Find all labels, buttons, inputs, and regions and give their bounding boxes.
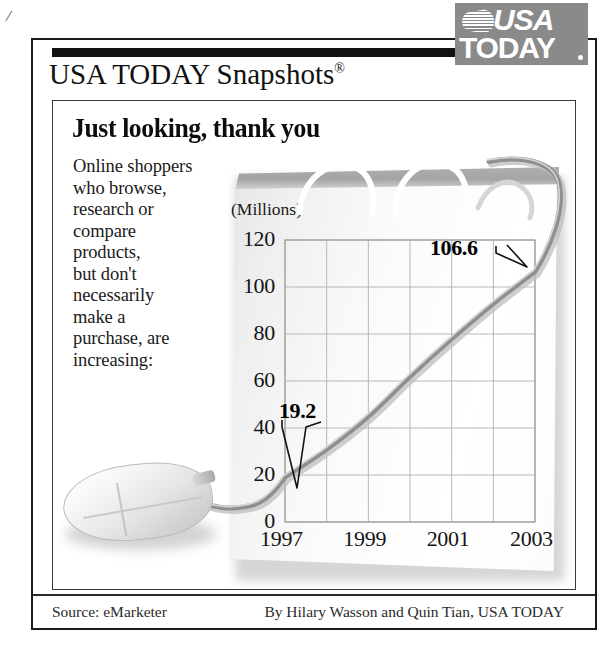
y-axis-tick-label: 100 <box>227 273 275 299</box>
deck-text: Online shoppers who browse, research or … <box>73 156 223 371</box>
y-axis-tick-label: 40 <box>227 414 275 440</box>
deck-line: who browse, <box>73 178 223 200</box>
scan-artifact-mark: / <box>4 6 26 31</box>
deck-line: necessarily <box>73 285 223 307</box>
y-axis-tick-label: 60 <box>227 367 275 393</box>
credit-label: By Hilary Wasson and Quin Tian, USA TODA… <box>264 603 564 621</box>
grid-lines <box>285 240 535 522</box>
data-callout-2003: 106.6 <box>430 235 478 261</box>
masthead-title: USA TODAY Snapshots® <box>49 58 345 91</box>
deck-line: make a <box>73 307 223 329</box>
logo-today-text: TODAY <box>459 32 555 64</box>
masthead-title-text: USA TODAY Snapshots <box>49 58 334 90</box>
masthead-rule <box>52 48 457 57</box>
registered-mark: ® <box>334 61 345 76</box>
usa-today-snapshot: / USA TODAY Snapshots® USA TODAY Just lo… <box>0 0 616 655</box>
deck-line: but don't <box>73 264 223 286</box>
deck-line: compare <box>73 221 223 243</box>
mouse-button-edge <box>83 496 201 518</box>
deck-line: Online shoppers <box>73 156 223 178</box>
logo-period-dot <box>578 55 583 60</box>
plot-svg <box>285 240 535 522</box>
x-axis-tick-label: 2003 <box>510 526 553 552</box>
footer-divider <box>33 594 595 596</box>
logo-inner: USA TODAY <box>455 3 588 65</box>
deck-line: increasing: <box>73 350 223 372</box>
deck-line: research or <box>73 199 223 221</box>
deck-line: products, <box>73 242 223 264</box>
source-label: Source: eMarketer <box>52 603 167 621</box>
y-axis-units-label: (Millions) <box>231 199 302 220</box>
x-axis-tick-label: 1999 <box>343 526 386 552</box>
deck-line: purchase, are <box>73 328 223 350</box>
computer-mouse-illustration <box>55 452 245 564</box>
x-axis-tick-label: 1997 <box>260 526 303 552</box>
page-title: Just looking, thank you <box>72 113 320 144</box>
data-callout-1997: 19.2 <box>279 398 316 424</box>
usa-today-logo: USA TODAY <box>455 3 588 65</box>
y-axis-tick-label: 80 <box>227 320 275 346</box>
y-axis-tick-label: 120 <box>227 226 275 252</box>
plot-area <box>285 240 535 522</box>
x-axis-tick-label: 2001 <box>427 526 470 552</box>
